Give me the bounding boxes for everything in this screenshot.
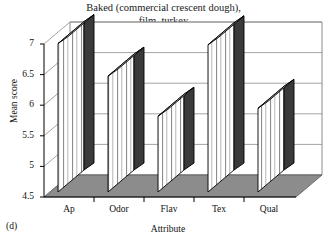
bar-ap[interactable] (58, 15, 94, 192)
x-tick-label-odor: Odor (95, 204, 143, 214)
chart-x-axis (44, 197, 296, 202)
y-tick-label-4-5: 4.5 (8, 192, 34, 202)
chart-plot-area: 7 6.5 6 5.5 5 4.5 Ap Odor Flav Tex Qual … (0, 0, 327, 240)
x-tick-label-tex: Tex (195, 204, 243, 214)
x-tick-label-ap: Ap (45, 204, 93, 214)
y-tick-label-5: 5 (8, 161, 34, 171)
x-tick-label-flav: Flav (145, 204, 193, 214)
y-tick-label-7: 7 (8, 39, 34, 49)
bar-tex[interactable] (208, 16, 244, 192)
y-axis-label: Mean score (9, 65, 19, 137)
panel-letter-label: (d) (6, 221, 17, 231)
x-tick-label-qual: Qual (245, 204, 293, 214)
chart-y-axis (40, 44, 44, 197)
chart-floor (44, 175, 322, 197)
x-axis-label: Attribute (98, 224, 238, 234)
